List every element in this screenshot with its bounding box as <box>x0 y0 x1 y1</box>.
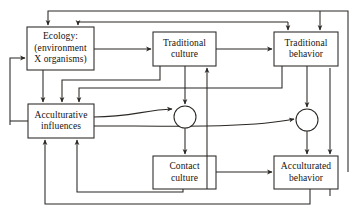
edge-traditional-culture-to-acculturative-influences <box>62 66 160 102</box>
edge-acculturative-influences-to-junction-left <box>94 109 172 117</box>
edge-traditional-behavior-to-ecology <box>78 22 288 25</box>
node-traditional-behavior <box>274 32 338 66</box>
acculturation-flow-diagram: Ecology: (environment X organisms) Tradi… <box>0 0 358 212</box>
node-acculturative-influences <box>28 104 94 138</box>
node-ecology <box>27 27 94 70</box>
edge-acculturated-behavior-to-ecology <box>10 58 25 125</box>
diagram-canvas <box>0 0 358 212</box>
junction-left-node <box>174 106 196 128</box>
node-traditional-culture <box>153 32 216 66</box>
node-acculturated-behavior <box>274 156 338 189</box>
junction-right-node <box>296 109 318 131</box>
edge-traditional-behavior-to-acculturative-influences <box>79 66 282 102</box>
